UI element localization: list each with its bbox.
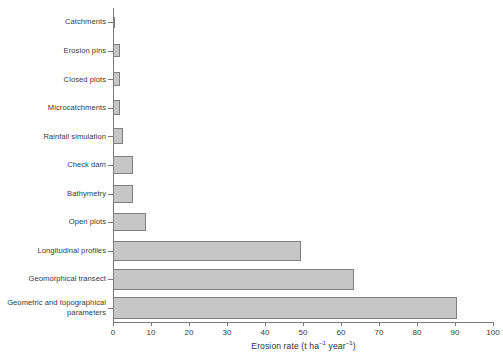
y-axis-label-line: Erosion pins (3, 46, 106, 56)
y-tick-mark (108, 136, 113, 137)
x-axis-title-tail: ) (353, 341, 356, 351)
x-tick-mark (455, 322, 456, 326)
bar-closed-plots (113, 72, 120, 86)
y-tick-mark (108, 22, 113, 23)
y-axis-label-line: Microcatchments (3, 103, 106, 113)
y-axis-label-rainfall-simulation: Rainfall simulation (3, 132, 106, 142)
y-axis-label-line: Open plots (3, 217, 106, 227)
x-tick-label: 40 (250, 328, 280, 337)
y-tick-mark (108, 51, 113, 52)
y-tick-mark (108, 194, 113, 195)
x-tick-mark (341, 322, 342, 326)
y-axis-label-microcatchments: Microcatchments (3, 103, 106, 113)
x-tick-label: 90 (440, 328, 470, 337)
x-axis-title: Erosion rate (t ha−1 year−1) (113, 341, 494, 351)
bar-erosion-pins (113, 44, 120, 57)
plot-area (113, 8, 493, 322)
bar-geometric-and-topographical-parameters (113, 297, 457, 319)
y-axis-label-line: Catchments (3, 17, 106, 27)
x-tick-label: 0 (98, 328, 128, 337)
y-tick-mark (108, 251, 113, 252)
y-axis-label-check-dam: Check dam (3, 160, 106, 170)
y-axis-label-line: Geometric and topographical (3, 298, 106, 308)
y-axis-label-line: Closed plots (3, 75, 106, 85)
bar-row (113, 44, 493, 57)
y-axis-label-line: Longitudinal profiles (3, 246, 106, 256)
y-axis-label-longitudinal-profiles: Longitudinal profiles (3, 246, 106, 256)
x-tick-label: 80 (402, 328, 432, 337)
y-axis-label-catchments: Catchments (3, 17, 106, 27)
x-tick-label: 30 (212, 328, 242, 337)
bar-row (113, 17, 493, 28)
bar-microcatchments (113, 100, 120, 115)
y-tick-mark (108, 279, 113, 280)
x-axis-title-mid: year (326, 341, 346, 351)
bar-rainfall-simulation (113, 128, 123, 144)
x-axis-title-lead: Erosion rate (t ha (251, 341, 319, 351)
y-axis-label-line: Check dam (3, 160, 106, 170)
bar-catchments (113, 17, 115, 28)
y-axis-label-erosion-pins: Erosion pins (3, 46, 106, 56)
x-tick-mark (303, 322, 304, 326)
x-tick-label: 60 (326, 328, 356, 337)
x-tick-label: 100 (478, 328, 503, 337)
bar-row (113, 156, 493, 173)
y-axis-label-line: parameters (3, 308, 106, 318)
y-tick-mark (108, 222, 113, 223)
bar-bathymetry (113, 185, 133, 203)
y-axis-label-bathymetry: Bathymetry (3, 189, 106, 199)
y-axis-label-closed-plots: Closed plots (3, 75, 106, 85)
x-tick-label: 20 (174, 328, 204, 337)
bar-row (113, 185, 493, 203)
x-tick-label: 10 (136, 328, 166, 337)
x-tick-mark (493, 322, 494, 326)
x-axis-title-sup2: −1 (346, 340, 353, 346)
bar-row (113, 269, 493, 290)
bar-row (113, 128, 493, 144)
y-axis-label-line: Rainfall simulation (3, 132, 106, 142)
x-tick-label: 70 (364, 328, 394, 337)
x-tick-mark (265, 322, 266, 326)
bar-row (113, 72, 493, 86)
erosion-rate-bar-chart: CatchmentsErosion pinsClosed plotsMicroc… (0, 0, 503, 364)
x-tick-mark (379, 322, 380, 326)
bar-geomorphical-transect (113, 269, 354, 290)
x-tick-mark (189, 322, 190, 326)
x-tick-mark (113, 322, 114, 326)
x-tick-mark (227, 322, 228, 326)
x-tick-mark (151, 322, 152, 326)
bar-row (113, 241, 493, 261)
bar-row (113, 100, 493, 115)
y-axis-label-line: Bathymetry (3, 189, 106, 199)
y-tick-mark (108, 79, 113, 80)
y-tick-mark (108, 308, 113, 309)
x-axis-title-sup1: −1 (319, 340, 326, 346)
bar-check-dam (113, 156, 133, 173)
bar-row (113, 213, 493, 232)
x-tick-label: 50 (288, 328, 318, 337)
bar-longitudinal-profiles (113, 241, 301, 261)
y-tick-mark (108, 165, 113, 166)
bar-row (113, 297, 493, 319)
y-tick-mark (108, 108, 113, 109)
y-axis-label-geometric-and-topographical-parameters: Geometric and topographicalparameters (3, 298, 106, 317)
y-axis-label-open-plots: Open plots (3, 217, 106, 227)
x-tick-mark (417, 322, 418, 326)
bar-open-plots (113, 213, 146, 232)
y-axis-label-line: Geomorphical transect (3, 274, 106, 284)
y-axis-label-geomorphical-transect: Geomorphical transect (3, 274, 106, 284)
